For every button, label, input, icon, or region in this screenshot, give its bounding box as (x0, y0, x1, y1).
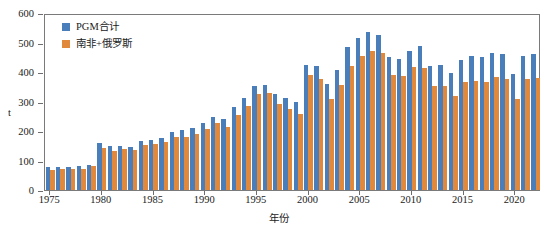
bar-group (521, 15, 530, 190)
x-axis-tick-mark (411, 191, 412, 195)
bar-south-africa-russia (505, 79, 509, 191)
bar-south-africa-russia (432, 86, 436, 190)
bar-group (500, 15, 509, 190)
bar-south-africa-russia (308, 75, 312, 190)
bar-south-africa-russia (174, 137, 178, 190)
bar-south-africa-russia (164, 142, 168, 190)
legend-swatch-icon (62, 40, 70, 48)
bar-south-africa-russia (422, 68, 426, 190)
x-axis-tick-mark (101, 191, 102, 195)
bar-south-africa-russia (525, 79, 529, 190)
bar-group (356, 15, 365, 190)
bar-south-africa-russia (443, 86, 447, 190)
bar-group (490, 15, 499, 190)
bar-south-africa-russia (370, 51, 374, 190)
bar-group (511, 15, 520, 190)
bar-group (263, 15, 272, 190)
legend-item[interactable]: PGM合计 (62, 19, 132, 34)
bar-group (345, 15, 354, 190)
bar-group (469, 15, 478, 190)
x-axis-tick-label: 2010 (394, 194, 428, 205)
y-axis-tick-mark (38, 73, 43, 74)
x-axis-tick-mark (49, 191, 50, 195)
x-axis-tick-label: 1985 (136, 194, 170, 205)
bar-group (387, 15, 396, 190)
y-axis-tick-label: 100 (0, 157, 34, 167)
bar-group (211, 15, 220, 190)
bar-group (376, 15, 385, 190)
bar-south-africa-russia (350, 66, 354, 190)
bar-south-africa-russia (112, 151, 116, 190)
x-axis-tick-label: 2005 (342, 194, 376, 205)
bar-south-africa-russia (246, 106, 250, 190)
bar-group (407, 15, 416, 190)
bar-south-africa-russia (339, 85, 343, 190)
x-axis-tick-mark (463, 191, 464, 195)
x-axis-tick-label: 1975 (32, 194, 66, 205)
bar-group (418, 15, 427, 190)
bar-south-africa-russia (298, 114, 302, 190)
bar-south-africa-russia (71, 169, 75, 190)
bar-south-africa-russia (102, 148, 106, 190)
x-axis-tick-label: 1980 (84, 194, 118, 205)
bar-group (190, 15, 199, 190)
bar-group (304, 15, 313, 190)
bar-south-africa-russia (133, 150, 137, 190)
bar-group (139, 15, 148, 190)
legend-label: PGM合计 (76, 21, 119, 32)
x-axis-tick-label: 2020 (497, 194, 531, 205)
bar-south-africa-russia (277, 104, 281, 190)
x-axis-tick-label: 1995 (239, 194, 273, 205)
bar-group (397, 15, 406, 190)
bar-south-africa-russia (215, 123, 219, 190)
bar-south-africa-russia (288, 109, 292, 190)
bar-group (221, 15, 230, 190)
bar-south-africa-russia (484, 82, 488, 190)
y-axis-tick-label: 500 (0, 39, 34, 49)
bar-south-africa-russia (184, 137, 188, 190)
bar-south-africa-russia (536, 78, 540, 190)
bar-south-africa-russia (50, 170, 54, 190)
x-axis-tick-mark (153, 191, 154, 195)
bar-group (459, 15, 468, 190)
y-axis-tick-label: 400 (0, 68, 34, 78)
bar-group (149, 15, 158, 190)
x-axis-tick-mark (308, 191, 309, 195)
bar-south-africa-russia (329, 99, 333, 190)
bar-group (170, 15, 179, 190)
bar-south-africa-russia (236, 115, 240, 190)
bar-south-africa-russia (381, 53, 385, 190)
bar-group (314, 15, 323, 190)
y-axis-tick-mark (38, 103, 43, 104)
chart-legend: PGM合计南非+俄罗斯 (62, 19, 132, 53)
bar-south-africa-russia (474, 81, 478, 190)
legend-item[interactable]: 南非+俄罗斯 (62, 36, 132, 51)
bar-south-africa-russia (412, 67, 416, 190)
bar-group (159, 15, 168, 190)
bar-south-africa-russia (122, 149, 126, 190)
bar-group (335, 15, 344, 190)
bar-south-africa-russia (226, 127, 230, 190)
bar-south-africa-russia (205, 129, 209, 190)
x-axis-tick-mark (204, 191, 205, 195)
x-axis-title: 年份 (0, 210, 558, 225)
y-axis-tick-mark (38, 132, 43, 133)
bar-group (325, 15, 334, 190)
bar-south-africa-russia (143, 145, 147, 190)
x-axis-tick-label: 1990 (187, 194, 221, 205)
x-axis-tick-mark (256, 191, 257, 195)
y-axis-tick-label: 0 (0, 186, 34, 196)
bar-group (180, 15, 189, 190)
bar-south-africa-russia (453, 96, 457, 190)
y-axis-tick-mark (38, 44, 43, 45)
bar-group (283, 15, 292, 190)
bar-group (294, 15, 303, 190)
bar-south-africa-russia (257, 94, 261, 190)
pgm-production-bar-chart: 0100200300400500600 t 197519801985199019… (0, 0, 558, 236)
bar-south-africa-russia (463, 82, 467, 190)
y-axis-tick-label: 200 (0, 127, 34, 137)
x-axis-tick-mark (359, 191, 360, 195)
y-axis-tick-mark (38, 162, 43, 163)
bar-group (232, 15, 241, 190)
bar-south-africa-russia (60, 169, 64, 190)
